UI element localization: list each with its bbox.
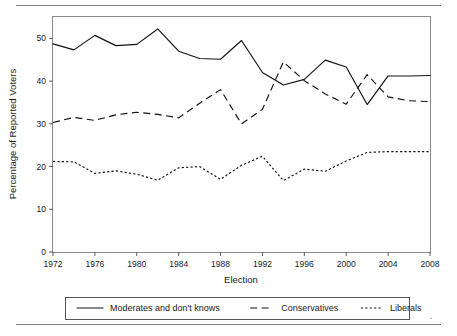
legend-label: Moderates and don't knows	[110, 303, 220, 313]
series-line-solid	[53, 29, 430, 105]
y-tick-label: 40	[37, 76, 47, 86]
x-tick-label: 2004	[379, 259, 398, 269]
x-tick-label: 2000	[337, 259, 356, 269]
x-tick-label: 1972	[44, 259, 63, 269]
y-tick-label: 30	[37, 119, 47, 129]
x-tick-label: 1980	[127, 259, 146, 269]
line-chart: 01020304050 1972197619801984198819921996…	[0, 0, 457, 336]
chart-svg: 01020304050 1972197619801984198819921996…	[0, 0, 457, 336]
x-axis-title: Election	[224, 274, 258, 285]
x-tick-label: 1988	[211, 259, 230, 269]
y-axis-title: Percentage of Reported Voters	[7, 69, 18, 200]
series-line-dotted	[53, 152, 430, 181]
x-tick-label: 1984	[169, 259, 188, 269]
legend-label: Conservatives	[281, 303, 339, 313]
figure-container: 01020304050 1972197619801984198819921996…	[0, 0, 457, 336]
y-tick-label: 0	[41, 247, 46, 257]
chart-legend: Moderates and don't knowsConservativesLi…	[66, 298, 422, 320]
series-line-dashed	[53, 62, 430, 124]
y-tick-label: 20	[37, 162, 47, 172]
x-tick-label: 1992	[253, 259, 272, 269]
x-axis-ticks: 1972197619801984198819921996200020042008	[44, 252, 440, 269]
x-tick-label: 1996	[295, 259, 314, 269]
plot-frame	[53, 17, 431, 253]
data-series-group	[53, 29, 430, 181]
page-artifact: •	[430, 316, 434, 320]
y-tick-label: 10	[37, 204, 47, 214]
x-tick-label: 2008	[421, 259, 440, 269]
y-axis-ticks: 01020304050	[37, 33, 53, 257]
x-tick-label: 1976	[85, 259, 104, 269]
y-tick-label: 50	[37, 33, 47, 43]
legend-label: Liberals	[390, 303, 422, 313]
